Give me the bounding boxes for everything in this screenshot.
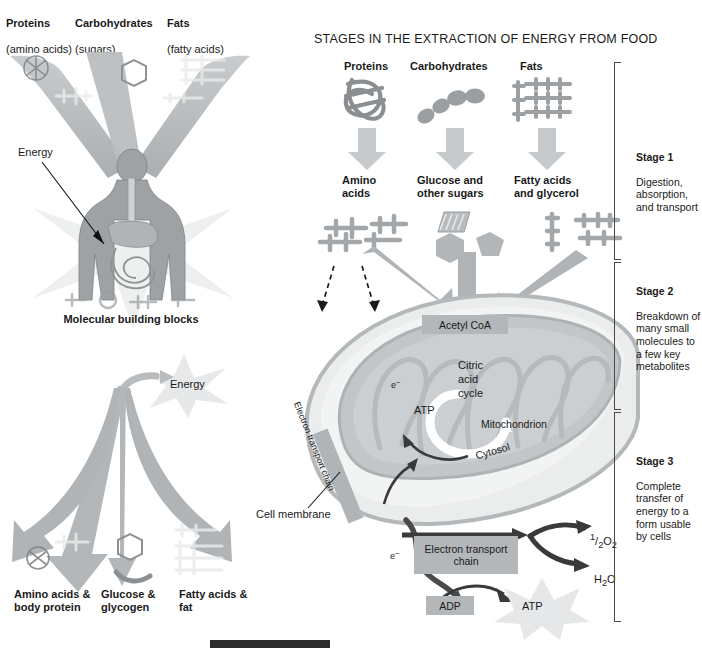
atp-mitochondria-label: ATP	[414, 404, 435, 417]
stage2-bracket	[614, 262, 615, 410]
cell-membrane-label: Cell membrane	[256, 508, 331, 521]
left-bottom-label-fatty-acids: Fatty acids & fat	[179, 588, 261, 614]
citric-acid-cycle-label: Citric acid cycle	[458, 358, 504, 400]
stage-2: Stage 2 Breakdown of many small molecule…	[636, 272, 702, 373]
atp-bottom-label: ATP	[522, 600, 543, 613]
stage1-bracket	[614, 62, 615, 260]
stage1-digestion-arrows	[342, 128, 592, 172]
left-bottom-label-amino-acids: Amino acids & body protein	[14, 588, 102, 614]
mitochondrion-label: Mitochondrion	[481, 418, 547, 431]
bottom-bar	[210, 640, 330, 648]
left-bottom-label-glucose: Glucose & glycogen	[101, 588, 183, 614]
food-label-proteins: Proteins	[344, 60, 388, 73]
left-top-molecule-icons	[14, 52, 244, 132]
protein-molecule-icon	[338, 74, 392, 126]
product-label-glucose: Glucose and other sugars	[417, 174, 512, 200]
food-label-carbohydrates: Carbohydrates	[410, 60, 488, 73]
main-panel: STAGES IN THE EXTRACTION OF ENERGY FROM …	[262, 0, 702, 648]
acetyl-coa-label: Acetyl CoA	[422, 315, 508, 334]
stage3-bracket	[614, 412, 615, 622]
electron-symbol-mito: e–	[391, 362, 400, 392]
electron-transport-chain-box: Electron transport chain	[414, 536, 518, 574]
bottom-molecule-icons	[16, 510, 246, 590]
figure-title: STAGES IN THE EXTRACTION OF ENERGY FROM …	[314, 32, 658, 46]
left-panel: Proteins (amino acids) Carbohydrates (su…	[0, 0, 262, 648]
fat-molecule-icon	[508, 74, 584, 128]
product-label-fatty-acids: Fatty acids and glycerol	[514, 174, 609, 200]
product-label-amino-acids: Amino acids	[342, 174, 402, 200]
half-oxygen-label: 1/2O2	[590, 518, 617, 552]
stage-1: Stage 1 Digestion, absorption, and trans…	[636, 138, 702, 214]
adp-label: ADP	[426, 596, 474, 615]
water-label: H2O	[594, 560, 616, 590]
food-label-fats: Fats	[520, 60, 543, 73]
molecular-building-blocks-caption: Molecular building blocks	[0, 313, 262, 326]
electron-symbol-lower: e–	[390, 533, 399, 563]
carbohydrate-molecule-icon	[414, 82, 490, 124]
energy-leader-line-top	[30, 152, 140, 262]
stage-3: Stage 3 Complete transfer of energy to a…	[636, 442, 702, 543]
energy-label-top: Energy	[18, 146, 53, 159]
building-block-icons	[60, 286, 200, 312]
